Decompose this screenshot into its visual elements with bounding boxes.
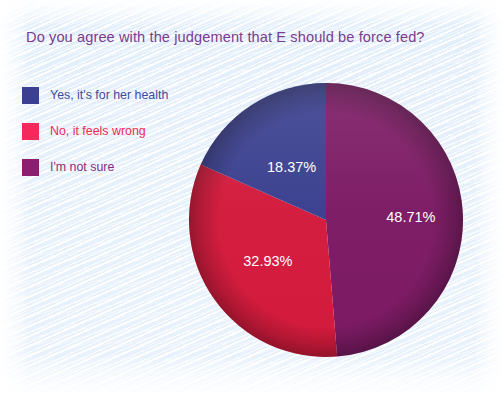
legend-swatch-icon <box>22 123 39 140</box>
legend-item-yes[interactable]: Yes, it's for her health <box>22 84 202 106</box>
chart-legend: Yes, it's for her health No, it feels wr… <box>22 84 202 192</box>
legend-item-label: No, it feels wrong <box>50 125 146 137</box>
legend-item-not-sure[interactable]: I'm not sure <box>22 156 202 178</box>
legend-item-label: Yes, it's for her health <box>50 89 168 101</box>
pie-chart[interactable]: 48.71%32.93%18.37% <box>188 82 464 358</box>
pie-slice-value-label: 32.93% <box>243 253 292 269</box>
pie-slice-value-label: 18.37% <box>267 159 316 175</box>
chart-canvas: Do you agree with the judgement that E s… <box>0 0 504 402</box>
legend-swatch-icon <box>22 159 39 176</box>
legend-item-no[interactable]: No, it feels wrong <box>22 120 202 142</box>
chart-title: Do you agree with the judgement that E s… <box>26 29 425 45</box>
legend-item-label: I'm not sure <box>50 161 114 173</box>
legend-swatch-icon <box>22 87 39 104</box>
pie-slice-value-label: 48.71% <box>386 209 435 225</box>
pie-svg: 48.71%32.93%18.37% <box>188 82 464 358</box>
